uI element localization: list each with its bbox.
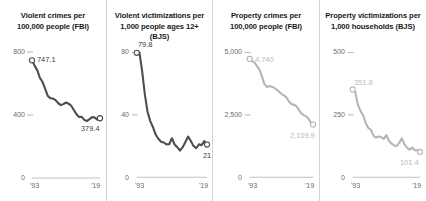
- data-line: [32, 60, 100, 121]
- y-tick-label: 250: [333, 111, 345, 118]
- chart-panel-0: Violent crimes per 100,000 people (FBI)8…: [0, 0, 106, 201]
- last-point-marker: [97, 116, 102, 121]
- end-value-label: 379.4: [81, 124, 100, 133]
- data-line: [250, 59, 313, 125]
- y-tick-label: 800: [13, 48, 25, 55]
- last-point-marker: [310, 122, 315, 127]
- y-tick-label: 80: [121, 48, 129, 55]
- x-tick-label: '93: [351, 182, 360, 189]
- chart-panel-2: Property crimes per 100,000 people (FBI)…: [212, 0, 319, 201]
- end-value-label: 2,109.9: [290, 131, 315, 140]
- start-value-label: 4,740: [255, 55, 274, 64]
- start-value-label: 351.8: [354, 78, 373, 87]
- last-point-marker: [417, 149, 422, 154]
- y-tick-label: 400: [13, 111, 25, 118]
- crime-trends-figure: Violent crimes per 100,000 people (FBI)8…: [0, 0, 426, 201]
- last-point-marker: [204, 142, 209, 147]
- chart-panel-3: Property victimizations per 1,000 househ…: [319, 0, 426, 201]
- y-tick-label: 0: [341, 174, 345, 181]
- y-tick-label: 0: [238, 174, 242, 181]
- x-tick-label: '19: [91, 182, 100, 189]
- x-tick-label: '93: [135, 182, 144, 189]
- plot-area: [0, 0, 106, 201]
- y-tick-label: 0: [125, 174, 129, 181]
- data-line: [353, 89, 420, 152]
- y-tick-label: 0: [21, 174, 25, 181]
- x-tick-label: '93: [30, 182, 39, 189]
- first-point-marker: [247, 56, 252, 61]
- end-value-label: 21: [203, 151, 211, 160]
- plot-area: [107, 0, 212, 201]
- start-value-label: 747.1: [37, 55, 56, 64]
- start-value-label: 79.8: [138, 40, 152, 49]
- plot-area: [213, 0, 319, 201]
- end-value-label: 101.4: [400, 158, 419, 167]
- chart-panel-1: Violent victimizations per 1,000 people …: [106, 0, 212, 201]
- x-tick-label: '19: [412, 182, 421, 189]
- x-tick-label: '19: [305, 182, 314, 189]
- x-tick-label: '19: [199, 182, 208, 189]
- first-point-marker: [29, 58, 34, 63]
- first-point-marker: [134, 50, 139, 55]
- plot-area: [320, 0, 426, 201]
- y-tick-label: 5,000: [224, 48, 242, 55]
- first-point-marker: [350, 87, 355, 92]
- y-tick-label: 2,500: [224, 111, 242, 118]
- y-tick-label: 40: [121, 111, 129, 118]
- y-tick-label: 500: [333, 48, 345, 55]
- x-tick-label: '93: [248, 182, 257, 189]
- data-line: [137, 52, 207, 150]
